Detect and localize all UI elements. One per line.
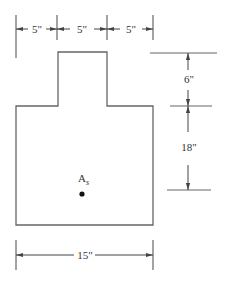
reinforcement-bar-dot xyxy=(79,191,84,196)
dim-label-top-right: 5" xyxy=(126,23,136,35)
dim-label-flange-depth: 6" xyxy=(184,73,194,85)
beam-section-diagram: 5" 5" 5" 6" 18" As 15" xyxy=(0,0,230,294)
dim-label-total-width: 15" xyxy=(77,249,93,261)
steel-area-label: As xyxy=(78,172,89,187)
section-outline xyxy=(16,52,153,225)
dim-label-top-left: 5" xyxy=(32,23,42,35)
dim-label-top-center: 5" xyxy=(77,23,87,35)
dim-label-web-depth: 18" xyxy=(181,141,197,153)
